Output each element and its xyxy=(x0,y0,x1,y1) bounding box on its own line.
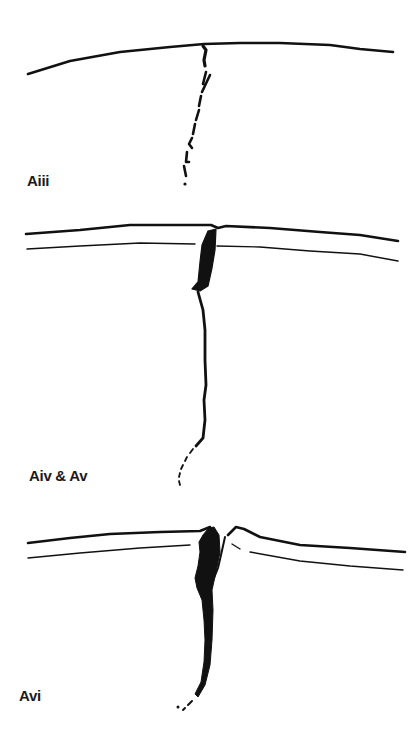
panel-aiii-drawing xyxy=(28,43,393,186)
crack-dashed xyxy=(184,72,210,176)
crack-wedge xyxy=(195,527,220,697)
surface-line-right xyxy=(228,527,405,552)
crack-wide-section xyxy=(192,229,216,291)
panel-label-aiv-av: Aiv & Av xyxy=(29,467,87,484)
subsurface-line-left xyxy=(27,243,195,249)
surface-line-left xyxy=(28,527,210,543)
subsurface-line-right xyxy=(217,246,398,261)
panel-label-avi: Avi xyxy=(19,687,41,704)
subsurface-line-left xyxy=(28,545,190,558)
crack-stem xyxy=(203,46,206,66)
panel-avi-drawing xyxy=(28,527,405,710)
crack-progression-diagram xyxy=(0,0,419,729)
panel-label-aiii: Aiii xyxy=(27,172,49,189)
crack-dotted-tail xyxy=(183,701,192,710)
crack-narrow-section xyxy=(196,292,206,446)
crack-dotted-tail xyxy=(179,449,193,485)
subsurface-line-right xyxy=(232,544,403,570)
surface-line xyxy=(28,43,393,74)
panel-aiv-av-drawing xyxy=(26,225,398,485)
